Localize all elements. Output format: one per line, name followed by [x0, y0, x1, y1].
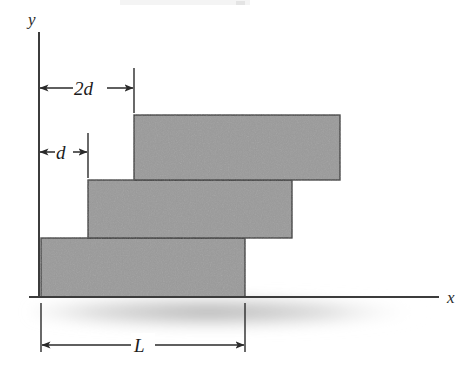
- middle-block: [88, 180, 292, 238]
- dimension-2d-label: 2d: [74, 78, 94, 99]
- ground-shadow: [30, 296, 426, 328]
- bottom-block: [41, 238, 245, 297]
- block-stack: [41, 115, 340, 297]
- dimension-L-label: L: [133, 335, 145, 356]
- top-block: [134, 115, 340, 180]
- dimension-d-label: d: [56, 142, 66, 163]
- x-axis-label: x: [446, 288, 455, 307]
- scan-artifact-strip: [120, 0, 250, 5]
- dimension-2d: 2d: [40, 68, 134, 113]
- block-stack-diagram: y x 2d d L: [0, 0, 473, 369]
- dimension-d: d: [40, 133, 88, 178]
- y-axis-label: y: [26, 10, 36, 29]
- figure-container: y x 2d d L: [0, 0, 473, 369]
